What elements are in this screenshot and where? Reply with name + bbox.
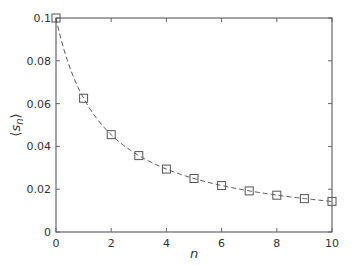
y-tick-label: 0.08 <box>27 55 52 68</box>
svg-text:⟨sn⟩: ⟨sn⟩ <box>8 113 25 136</box>
x-tick-label: 10 <box>325 237 339 250</box>
x-tick-label: 6 <box>218 237 225 250</box>
theory-curve <box>56 18 332 201</box>
y-axis-label: ⟨sn⟩ <box>8 113 25 136</box>
y-tick-label: 0.02 <box>27 183 52 196</box>
data-point-marker <box>135 152 143 160</box>
y-tick-label: 0.06 <box>27 98 52 111</box>
y-tick-label: 0.04 <box>27 140 52 153</box>
y-label-close-bracket: ⟩ <box>8 113 23 118</box>
x-tick-label: 4 <box>163 237 170 250</box>
x-tick-label: 2 <box>108 237 115 250</box>
y-tick-label: 0.1 <box>34 12 52 25</box>
data-point-marker <box>80 94 88 102</box>
x-axis-label: n <box>190 246 198 261</box>
y-tick-label: 0 <box>44 226 51 239</box>
x-tick-label: 8 <box>273 237 280 250</box>
axis-ticks: 024681000.020.040.060.080.1 <box>27 12 340 250</box>
chart: 024681000.020.040.060.080.1 n ⟨sn⟩ <box>0 0 353 266</box>
data-markers <box>52 14 336 205</box>
plot-frame <box>56 18 332 232</box>
x-tick-label: 0 <box>53 237 60 250</box>
data-point-marker <box>218 182 226 190</box>
